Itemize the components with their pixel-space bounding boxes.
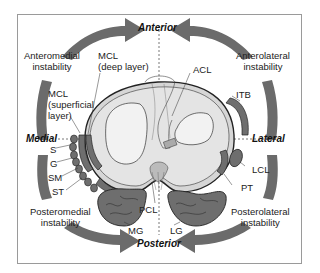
label-acl: ACL <box>193 64 211 75</box>
label-s: S <box>50 144 56 155</box>
label-posterior: Posterior <box>137 238 181 249</box>
label-pt: PT <box>241 182 253 193</box>
label-medial: Medial <box>26 133 57 144</box>
label-posterolateral-instability: Posterolateral instability <box>231 206 290 228</box>
label-g: G <box>50 158 57 169</box>
label-st: ST <box>52 186 64 197</box>
label-lcl: LCL <box>252 164 269 175</box>
label-mcl-deep: MCL (deep layer) <box>98 50 149 72</box>
label-mcl-superficial: MCL (superficial layer) <box>48 88 94 121</box>
label-anterolateral-instability: Anterolateral instability <box>236 50 290 72</box>
label-sm: SM <box>48 172 62 183</box>
label-lg: LG <box>170 225 183 236</box>
tibial-plateau <box>85 76 234 192</box>
label-mg: MG <box>128 225 143 236</box>
label-lateral: Lateral <box>252 133 285 144</box>
label-posteromedial-instability: Posteromedial instability <box>30 206 91 228</box>
label-pcl: PCL <box>139 204 157 215</box>
label-anterior: Anterior <box>138 22 177 33</box>
lg-muscle <box>168 191 226 226</box>
label-itb: ITB <box>236 89 251 100</box>
label-anteromedial-instability: Anteromedial instability <box>24 50 80 72</box>
